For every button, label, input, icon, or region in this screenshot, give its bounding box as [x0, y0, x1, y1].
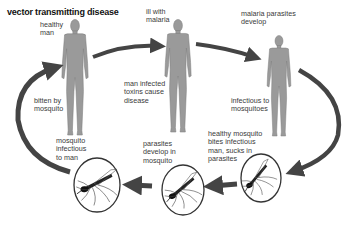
label-malaria-parasites-develop: malaria parasites develop	[241, 10, 296, 27]
arrow-mosquito-middle-to-left	[132, 185, 152, 186]
diagram-title: vector transmitting disease	[7, 7, 119, 17]
arrow-ill-to-parasites	[196, 44, 254, 57]
label-infectious-to-mosquitoes: infectious to mosquitoes	[231, 97, 269, 114]
human-figure-malaria-parasites-develop	[267, 36, 291, 137]
malaria-cycle-diagram: vector transmitting disease healthy man …	[0, 0, 350, 227]
label-toxins-cause-disease: man infected toxins cause disease	[124, 80, 165, 105]
label-mosquito-infectious: mosquito infectious to man	[56, 137, 86, 162]
mosquito-circle-infectious	[74, 158, 120, 212]
label-parasites-develop-in-mosquito: parasites develop in mosquito	[143, 140, 176, 165]
label-healthy-man: healthy man	[40, 21, 63, 38]
label-mosquito-sucks-parasites: healthy mosquito bites infectious man, s…	[208, 130, 262, 164]
arrow-healthy-to-ill	[93, 46, 158, 57]
mosquito-circle-parasites-develop	[161, 165, 206, 215]
label-ill-with-malaria: ill with malaria	[146, 8, 170, 25]
arrow-mosquito-right-to-middle	[213, 184, 237, 186]
arrow-human-to-mosquito	[294, 70, 339, 171]
human-figure-ill-with-malaria	[165, 19, 191, 132]
human-figure-healthy-man	[62, 19, 88, 135]
label-bitten-by-mosquito: bitten by mosquito	[34, 97, 63, 114]
